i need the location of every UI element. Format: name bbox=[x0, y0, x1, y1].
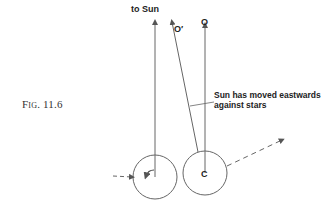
annotation-line-2: against stars bbox=[214, 100, 329, 110]
o-label: O bbox=[201, 17, 208, 27]
c-label: C bbox=[201, 169, 208, 179]
o-prime-arrow bbox=[172, 22, 198, 152]
annotation-line-1: Sun has moved eastwards bbox=[214, 90, 329, 100]
orbit-arrow-right bbox=[227, 140, 282, 166]
to-sun-label: to Sun bbox=[131, 4, 159, 14]
annotation-text: Sun has moved eastwards against stars bbox=[214, 90, 329, 110]
o-prime-label: O′ bbox=[174, 24, 183, 34]
annotation-pointer bbox=[190, 102, 214, 106]
rotation-arrow-icon bbox=[146, 170, 154, 176]
orbit-arrow-left bbox=[113, 176, 132, 177]
